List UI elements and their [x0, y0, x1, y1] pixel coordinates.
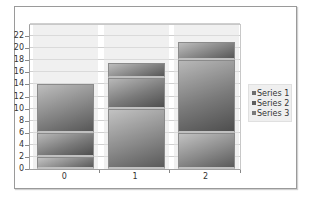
legend-label: Series 1	[257, 89, 289, 98]
y-tick-mark	[25, 72, 29, 73]
bar-segment-series-1	[178, 133, 235, 169]
bar-segment-series-3	[37, 84, 94, 132]
y-tick-mark	[25, 133, 29, 134]
bar-segment-series-1	[37, 157, 94, 169]
x-tick-label: 2	[196, 172, 216, 181]
y-tick-mark	[25, 84, 29, 85]
x-tick-mark	[240, 170, 241, 173]
y-tick-mark	[25, 145, 29, 146]
y-tick-label: 6	[4, 129, 24, 137]
y-tick-mark	[25, 60, 29, 61]
y-tick-label: 22	[4, 32, 24, 40]
plot-area	[29, 24, 241, 170]
y-tick-mark	[25, 109, 29, 110]
y-tick-label: 18	[4, 56, 24, 64]
legend-label: Series 2	[257, 99, 289, 108]
y-tick-label: 0	[4, 165, 24, 173]
y-tick-label: 8	[4, 117, 24, 125]
y-tick-label: 20	[4, 44, 24, 52]
bar-segment-series-2	[178, 60, 235, 133]
legend-label: Series 3	[257, 109, 289, 118]
y-tick-label: 4	[4, 141, 24, 149]
x-tick-mark	[99, 170, 100, 173]
y-tick-mark	[25, 97, 29, 98]
legend-swatch-icon	[252, 101, 256, 105]
legend-swatch-icon	[252, 111, 256, 115]
bar-segment-series-2	[37, 133, 94, 157]
x-tick-mark	[169, 170, 170, 173]
y-tick-mark	[25, 36, 29, 37]
y-tick-label: 16	[4, 68, 24, 76]
legend-item-series-3: Series 3	[252, 109, 289, 118]
bar-segment-series-1	[108, 109, 165, 169]
y-tick-mark	[25, 48, 29, 49]
y-tick-label: 12	[4, 93, 24, 101]
bar-stack-1	[108, 63, 165, 169]
y-tick-label: 14	[4, 80, 24, 88]
legend-item-series-2: Series 2	[252, 99, 289, 108]
bar-stack-2	[178, 42, 235, 169]
y-tick-label: 10	[4, 105, 24, 113]
bar-segment-series-3	[178, 42, 235, 60]
bar-stack-0	[37, 84, 94, 169]
legend: Series 1 Series 2 Series 3	[248, 84, 292, 122]
y-tick-mark	[25, 121, 29, 122]
x-tick-label: 0	[54, 172, 74, 181]
gridline	[30, 23, 240, 24]
bar-segment-series-2	[108, 78, 165, 108]
y-tick-mark	[25, 169, 29, 170]
y-tick-mark	[25, 157, 29, 158]
bar-segment-series-3	[108, 63, 165, 78]
x-tick-label: 1	[125, 172, 145, 181]
y-tick-label: 2	[4, 153, 24, 161]
legend-item-series-1: Series 1	[252, 89, 289, 98]
legend-swatch-icon	[252, 91, 256, 95]
